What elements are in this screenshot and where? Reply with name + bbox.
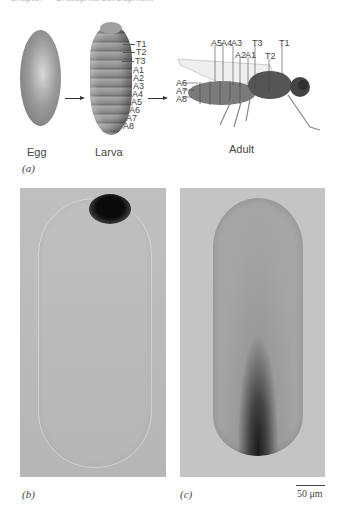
panel-c-micrograph <box>180 188 325 477</box>
adult-label-t1: T1 <box>279 39 290 48</box>
scale-bar <box>296 485 325 486</box>
arrow-icon <box>65 98 83 99</box>
panel-label-a: (a) <box>22 162 35 174</box>
leader-line <box>123 52 135 53</box>
larva-label-a8: A8 <box>123 122 134 131</box>
adult-label-a8: A8 <box>176 95 187 104</box>
adult-label-a1: A1 <box>245 51 256 60</box>
adult-label-a3: A3 <box>231 39 242 48</box>
panel-b-micrograph <box>20 188 166 477</box>
leader-line <box>122 61 134 62</box>
panel-label-c: (c) <box>180 488 192 500</box>
egg-illustration <box>20 30 61 126</box>
panel-label-b: (b) <box>22 488 35 500</box>
larva-head <box>100 22 122 34</box>
stage-label-larva: Larva <box>95 146 123 158</box>
leader-line <box>123 44 135 45</box>
embryo-outline <box>38 198 152 468</box>
adult-label-t2: T2 <box>265 52 276 61</box>
stage-label-adult: Adult <box>229 143 254 155</box>
panel-a-illustration: Egg Larva T1 T2 T3 A1 A2 A3 A4 A5 A6 A7 … <box>0 0 342 170</box>
stage-label-egg: Egg <box>27 146 47 158</box>
adult-label-t3: T3 <box>252 39 263 48</box>
scale-bar-label: 50 μm <box>297 488 323 499</box>
arrow-icon <box>148 98 166 99</box>
stained-pole-spot <box>89 194 131 224</box>
embryo-stained <box>213 198 303 456</box>
